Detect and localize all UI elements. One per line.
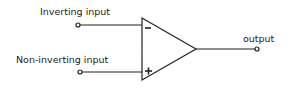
inverting-input-terminal	[76, 23, 80, 27]
output-terminal	[255, 47, 259, 51]
non-inverting-input-terminal	[78, 70, 82, 74]
op-amp-diagram: Inverting input Non-inverting input outp…	[0, 0, 288, 88]
inverting-input-label: Inverting input	[40, 6, 110, 17]
output-label: output	[243, 33, 274, 44]
non-inverting-input-label: Non-inverting input	[16, 54, 108, 65]
